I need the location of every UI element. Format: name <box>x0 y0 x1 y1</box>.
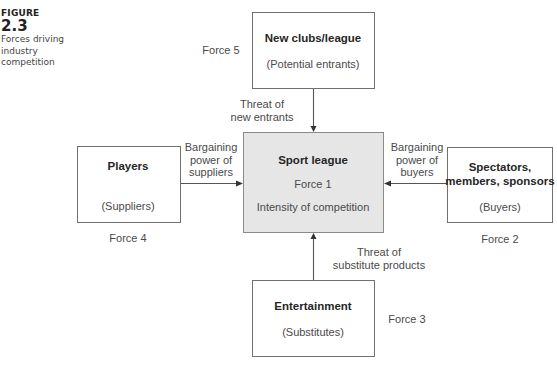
buyers-subtitle: (Buyers) <box>479 201 521 213</box>
entrants-title: New clubs/league <box>265 32 362 44</box>
threat-substitutes-label: Threat of substitute products <box>333 246 425 271</box>
entertainment-title: Entertainment <box>274 300 351 312</box>
entertainment-subtitle: (Substitutes) <box>282 326 344 338</box>
arrowhead-right-icon <box>236 181 243 187</box>
arrowhead-left-icon <box>384 181 391 187</box>
entrants-subtitle: (Potential entrants) <box>267 58 360 70</box>
sport-league-title: Sport league <box>278 154 348 166</box>
players-subtitle: (Suppliers) <box>101 200 154 212</box>
arrowhead-up-icon <box>311 233 317 239</box>
force-1-label: Force 1 <box>294 178 331 190</box>
arrowhead-down-icon <box>311 126 317 132</box>
force-2-label: Force 2 <box>481 233 518 245</box>
threat-new-entrants-label: Threat of new entrants <box>231 98 294 123</box>
force-4-label: Force 4 <box>109 232 146 244</box>
buyer-power-label: Bargaining power of buyers <box>391 141 444 179</box>
players-title: Players <box>108 160 149 172</box>
intensity-label: Intensity of competition <box>257 201 370 213</box>
supplier-power-label: Bargaining power of suppliers <box>185 141 238 179</box>
force-5-label: Force 5 <box>202 44 239 56</box>
buyers-title: Spectators, members, sponsors <box>445 160 554 188</box>
force-3-label: Force 3 <box>388 313 425 325</box>
